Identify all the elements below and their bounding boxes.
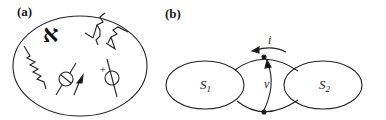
diagram-canvas: א + (0, 0, 386, 120)
current-arrow (256, 48, 286, 52)
resistor-icon (24, 46, 46, 89)
current-source-icon (56, 63, 83, 95)
voltage-label: v (264, 77, 270, 91)
s1-label: S1 (200, 77, 211, 94)
aleph-symbol: א (43, 19, 58, 48)
upper-terminal (262, 55, 266, 59)
panel-a: א + (13, 13, 147, 116)
voltage-arrowhead (265, 60, 271, 68)
current-arrowhead (252, 47, 259, 53)
plus-sign: + (100, 64, 106, 75)
transformer-icon (85, 13, 128, 49)
lower-terminal (262, 110, 266, 114)
current-label: i (268, 33, 271, 47)
s2-label: S2 (319, 77, 331, 94)
voltage-source-icon: + (100, 59, 119, 97)
